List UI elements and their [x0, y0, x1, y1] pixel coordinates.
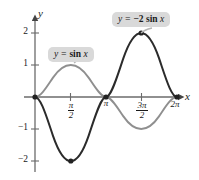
- x-tick-label-pi: π: [99, 99, 113, 108]
- callout-neg2sin-prefix: y =: [118, 14, 133, 24]
- x-tick-label-2pi: 2π: [165, 100, 185, 109]
- callout-sin-function: sin: [69, 49, 81, 59]
- callout-sin-prefix: y =: [54, 49, 69, 59]
- y-tick-label-minus-2: −2: [8, 155, 28, 165]
- callout-label-neg-2-sin-x: y = −2 sin x: [112, 12, 170, 27]
- callout-neg2sin-suffix: x: [158, 14, 165, 24]
- y-tick-label-1: 1: [12, 59, 28, 69]
- pi-label: π: [104, 98, 109, 108]
- x-tick-label-pi-over-2: π 2: [62, 101, 80, 120]
- y-axis-label: y: [37, 7, 43, 19]
- point-origin: [32, 94, 37, 99]
- leader-line-neg2sin: [141, 28, 152, 33]
- point-min-neg2: [68, 158, 73, 163]
- callout-sin-suffix: x: [81, 49, 88, 59]
- two-pi-label: 2π: [170, 99, 179, 109]
- trig-graph-figure: x y 2 1 −1 −2 π 2 π 3π 2 2π y = sin x y …: [0, 0, 199, 180]
- three-pi-over-2-denominator: 2: [136, 111, 147, 120]
- y-tick-label-2: 2: [12, 27, 28, 37]
- callout-label-sin-x: y = sin x: [48, 47, 94, 62]
- pi-over-2-denominator: 2: [68, 111, 75, 120]
- y-tick-label-minus-1: −1: [8, 123, 28, 133]
- callout-neg2sin-function: sin: [144, 14, 158, 24]
- x-tick-label-3pi-over-2: 3π 2: [131, 101, 153, 120]
- plot-area: x y: [0, 0, 199, 180]
- callout-neg2sin-coefficient: −2: [133, 14, 143, 24]
